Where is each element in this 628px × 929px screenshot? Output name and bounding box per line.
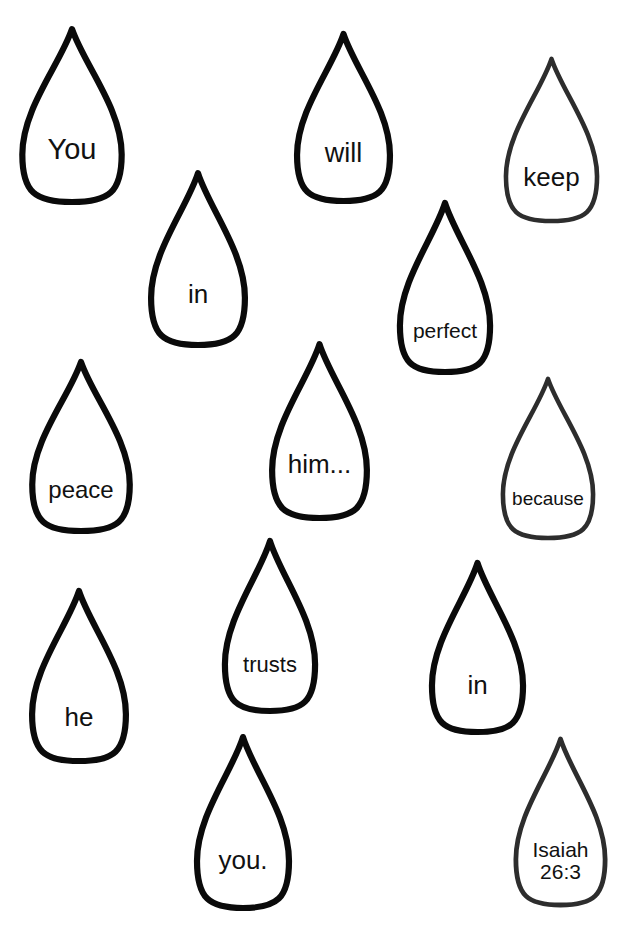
- raindrop-trusts: trusts: [221, 538, 319, 711]
- raindrop-perfect: perfect: [396, 200, 494, 372]
- raindrop-because: because: [499, 376, 597, 538]
- raindrop-outline-icon: [396, 200, 494, 372]
- raindrop-outline-icon: [428, 560, 527, 732]
- raindrop-him: him...: [268, 341, 371, 518]
- raindrop-outline-icon: [28, 359, 134, 531]
- raindrop-outline-icon: [293, 31, 394, 201]
- raindrop-you: You: [18, 26, 126, 202]
- raindrop-outline-icon: [499, 376, 597, 538]
- raindrop-outline-icon: [193, 734, 293, 908]
- raindrop-he: he: [28, 588, 130, 761]
- raindrop-you: you.: [193, 734, 293, 908]
- raindrop-isaiah263: Isaiah 26:3: [512, 736, 609, 905]
- raindrop-outline-icon: [512, 736, 609, 905]
- raindrop-outline-icon: [147, 170, 249, 345]
- raindrop-outline-icon: [502, 56, 601, 221]
- raindrop-word-sheet: Youwillkeepinperfectpeacehim...becausehe…: [0, 0, 628, 929]
- raindrop-keep: keep: [502, 56, 601, 221]
- raindrop-outline-icon: [18, 26, 126, 202]
- raindrop-peace: peace: [28, 359, 134, 531]
- raindrop-outline-icon: [28, 588, 130, 761]
- raindrop-will: will: [293, 31, 394, 201]
- raindrop-in: in: [428, 560, 527, 732]
- raindrop-in: in: [147, 170, 249, 345]
- raindrop-outline-icon: [221, 538, 319, 711]
- raindrop-outline-icon: [268, 341, 371, 518]
